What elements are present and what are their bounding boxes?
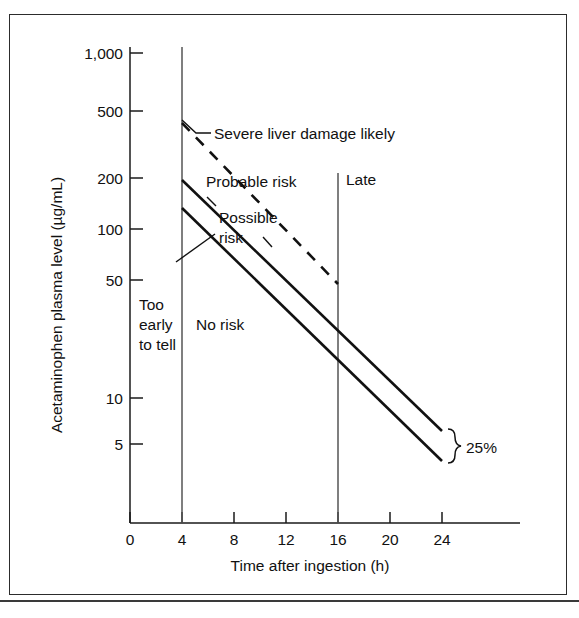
y-axis-title: Acetaminophen plasma level (µg/mL) xyxy=(48,177,65,433)
y-tick-10: 10 xyxy=(106,390,143,407)
y-tick-5: 5 xyxy=(114,436,143,453)
too-early-label-line1: Too xyxy=(139,296,164,313)
no-risk-label: No risk xyxy=(196,316,244,333)
probable-risk-label: Probable risk xyxy=(206,173,297,190)
y-tick-200: 200 xyxy=(97,170,143,187)
possible-risk-label-line2: risk xyxy=(219,229,243,246)
severe-liver-damage-label: Severe liver damage likely xyxy=(214,125,395,142)
annotation-too-early-to-tell: Too early to tell xyxy=(139,296,176,353)
x-tick-12: 12 xyxy=(277,512,294,548)
possible-risk-tail-leader xyxy=(263,237,272,247)
bottom-rule-divider xyxy=(0,600,579,602)
y-tick-label-100: 100 xyxy=(97,221,123,238)
y-tick-1000: 1,000 xyxy=(84,45,143,62)
acetaminophen-nomogram-chart: 1,000 500 200 100 50 10 xyxy=(10,15,566,594)
x-axis: 0 4 8 12 16 20 xyxy=(126,512,520,574)
y-tick-label-200: 200 xyxy=(97,170,123,187)
x-tick-24: 24 xyxy=(433,512,451,548)
y-tick-label-1000: 1,000 xyxy=(84,45,123,62)
annotation-probable-risk: Probable risk xyxy=(206,173,297,206)
figure-frame: 1,000 500 200 100 50 10 xyxy=(9,14,567,595)
x-tick-0: 0 xyxy=(126,512,135,548)
curly-brace-icon xyxy=(448,429,461,463)
too-early-label-line3: to tell xyxy=(139,336,176,353)
y-tick-label-10: 10 xyxy=(106,390,124,407)
x-tick-label-12: 12 xyxy=(277,531,294,548)
late-label: Late xyxy=(346,171,376,188)
x-axis-title: Time after ingestion (h) xyxy=(231,557,390,574)
y-tick-label-500: 500 xyxy=(97,103,123,120)
x-tick-label-16: 16 xyxy=(329,531,346,548)
x-tick-label-8: 8 xyxy=(230,531,239,548)
y-tick-label-5: 5 xyxy=(114,436,123,453)
y-axis: 1,000 500 200 100 50 10 xyxy=(48,45,143,523)
y-tick-50: 50 xyxy=(106,272,143,289)
percent-bracket-label: 25% xyxy=(466,439,497,456)
possible-risk-label-line1: Possible xyxy=(219,209,278,226)
x-tick-label-20: 20 xyxy=(381,531,399,548)
y-tick-label-50: 50 xyxy=(106,272,124,289)
y-tick-100: 100 xyxy=(97,221,143,238)
x-tick-label-24: 24 xyxy=(433,531,451,548)
y-tick-500: 500 xyxy=(97,103,143,120)
x-tick-8: 8 xyxy=(230,512,239,548)
too-early-label-line2: early xyxy=(139,316,173,333)
x-tick-label-4: 4 xyxy=(178,531,187,548)
annotation-severe-liver-damage: Severe liver damage likely xyxy=(182,120,395,142)
x-tick-20: 20 xyxy=(381,512,399,548)
annotation-percent-bracket: 25% xyxy=(448,429,497,463)
x-tick-label-0: 0 xyxy=(126,531,135,548)
